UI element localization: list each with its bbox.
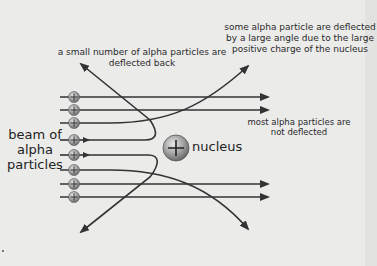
label-beam: beam of alpha particles <box>4 128 66 173</box>
label-large-angle: some alpha particle are deflected by a l… <box>222 22 377 54</box>
stray-dot <box>2 250 4 252</box>
alpha-particle <box>69 165 80 176</box>
alpha-particle <box>69 150 80 161</box>
alpha-particle <box>69 118 80 129</box>
trajectory-deflect-up <box>60 66 248 123</box>
label-deflected-back: a small number of alpha particles are de… <box>52 47 232 69</box>
alpha-particle <box>69 179 80 190</box>
alpha-particle <box>69 92 80 103</box>
alpha-particles <box>69 92 80 203</box>
label-not-deflected: most alpha particles are not deflected <box>240 117 358 137</box>
trajectory-back-up <box>81 64 155 140</box>
nucleus-icon <box>163 135 189 161</box>
trajectory-back-down <box>81 155 157 232</box>
alpha-particle <box>69 135 80 146</box>
trajectory-deflect-down <box>60 170 248 229</box>
alpha-particle <box>69 105 80 116</box>
label-nucleus: nucleus <box>192 139 242 155</box>
alpha-particle <box>69 192 80 203</box>
